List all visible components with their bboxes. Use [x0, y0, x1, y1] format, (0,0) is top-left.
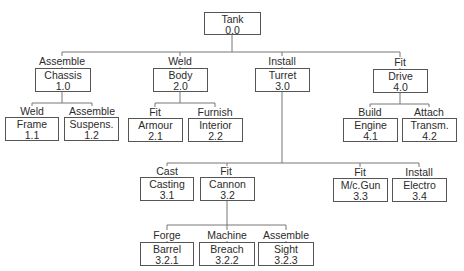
- verb-label: Install: [396, 167, 442, 178]
- node-barrel: Barrel 3.2.1: [140, 242, 194, 266]
- node-transmission: Transm. 4.2: [402, 118, 457, 142]
- node-code: 3.1: [141, 190, 193, 201]
- node-code: 2.1: [129, 131, 182, 142]
- node-engine: Engine 4.1: [343, 118, 398, 142]
- node-frame: Frame 1.1: [5, 117, 59, 141]
- tank-work-breakdown-diagram: Tank 0.0 Assemble Chassis 1.0 Weld Body …: [0, 0, 464, 271]
- verb-label: Assemble: [62, 106, 122, 117]
- node-code: 3.2.2: [200, 255, 254, 266]
- node-code: 1.0: [36, 81, 90, 92]
- verb-label: Fit: [345, 167, 375, 178]
- node-code: 1.2: [65, 130, 118, 141]
- node-armour: Armour 2.1: [128, 118, 183, 142]
- node-turret: Turret 3.0: [255, 68, 310, 92]
- node-electro: Electro 3.4: [392, 178, 447, 202]
- node-code: 3.2.1: [141, 255, 193, 266]
- node-code: 3.2.3: [259, 255, 313, 266]
- verb-label: Fit: [380, 57, 420, 68]
- verb-label: Machine: [200, 230, 254, 241]
- node-tank: Tank 0.0: [204, 12, 261, 35]
- node-code: 2.0: [154, 81, 207, 92]
- node-code: 0.0: [205, 25, 260, 36]
- node-drive: Drive 4.0: [373, 69, 428, 93]
- node-code: 3.4: [393, 191, 446, 202]
- node-code: 1.1: [6, 130, 58, 141]
- node-casting: Casting 3.1: [140, 177, 194, 201]
- verb-label: Weld: [150, 56, 210, 67]
- verb-label: Fit: [135, 107, 175, 118]
- node-cannon: Cannon 3.2: [200, 177, 255, 201]
- node-sight: Sight 3.2.3: [258, 242, 314, 266]
- node-breach: Breach 3.2.2: [199, 242, 255, 266]
- verb-label: Furnish: [190, 107, 240, 118]
- verb-label: Assemble: [22, 56, 102, 67]
- verb-label: Build: [350, 107, 390, 118]
- verb-label: Forge: [144, 230, 190, 241]
- node-code: 4.2: [403, 131, 456, 142]
- node-code: 3.2: [201, 190, 254, 201]
- node-interior: Interior 2.2: [188, 118, 243, 142]
- node-code: 3.3: [334, 191, 387, 202]
- verb-label: Install: [252, 56, 312, 67]
- node-code: 3.0: [256, 81, 309, 92]
- node-code: 4.0: [374, 82, 427, 93]
- node-code: 2.2: [189, 131, 242, 142]
- verb-label: Cast: [147, 166, 187, 177]
- verb-label: Weld: [12, 106, 52, 117]
- node-machine-gun: M/c.Gun 3.3: [333, 178, 388, 202]
- verb-label: Assemble: [256, 230, 316, 241]
- node-code: 4.1: [344, 131, 397, 142]
- node-body: Body 2.0: [153, 68, 208, 92]
- verb-label: Fit: [211, 166, 241, 177]
- node-chassis: Chassis 1.0: [35, 68, 91, 92]
- node-suspension: Suspens. 1.2: [64, 117, 119, 141]
- verb-label: Attach: [406, 107, 452, 118]
